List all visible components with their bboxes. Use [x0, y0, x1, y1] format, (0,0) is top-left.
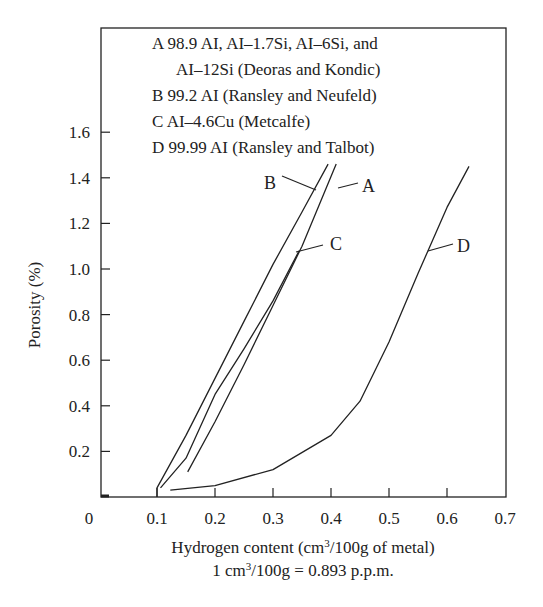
x-tick-label: 0.7	[494, 509, 516, 528]
porosity-chart: 0.20.40.60.81.01.21.41.6 00.10.20.30.40.…	[0, 0, 543, 607]
y-tick-label: 1.2	[69, 214, 90, 233]
curves	[157, 164, 469, 497]
y-tick-label: 0.2	[69, 442, 90, 461]
x-axis-ticks: 00.10.20.30.40.50.60.7	[85, 488, 516, 528]
x-axis-label: Hydrogen content (cm3/100g of metal)	[171, 537, 434, 557]
legend: A 98.9 AI, AI–1.7Si, AI–6Si, andAI–12Si …	[152, 34, 380, 157]
curve-b	[157, 164, 328, 497]
y-tick-label: 1.0	[69, 260, 90, 279]
curve-label-a: A	[362, 176, 375, 196]
y-tick-label: 1.4	[69, 169, 91, 188]
x-tick-label: 0.4	[320, 509, 342, 528]
x-tick-label: 0.2	[204, 509, 225, 528]
x-tick-label: 0.6	[436, 509, 457, 528]
curve-label-b: B	[264, 173, 276, 193]
y-tick-label: 0.6	[69, 351, 90, 370]
y-tick-label: 0.4	[69, 397, 91, 416]
y-axis-label: Porosity (%)	[25, 262, 44, 348]
leader-c	[296, 245, 323, 252]
curve-label-d: D	[457, 236, 470, 256]
curve-c	[161, 251, 300, 488]
y-axis-ticks: 0.20.40.60.81.01.21.41.6	[69, 123, 110, 461]
leader-d	[428, 244, 453, 251]
leader-b	[282, 176, 316, 190]
legend-entry-b: B 99.2 AI (Ransley and Neufeld)	[152, 86, 377, 105]
x-tick-label: 0	[85, 509, 94, 528]
legend-entry-c: C AI–4.6Cu (Metcalfe)	[152, 112, 310, 131]
curve-d	[170, 166, 469, 490]
curve-labels: ABCD	[264, 173, 470, 256]
x-tick-label: 0.1	[146, 509, 167, 528]
leader-a	[338, 183, 358, 188]
x-tick-label: 0.3	[262, 509, 283, 528]
legend-entry-a: A 98.9 AI, AI–1.7Si, AI–6Si, and	[152, 34, 378, 53]
legend-entry-d: D 99.99 AI (Ransley and Talbot)	[152, 138, 374, 157]
legend-entry-a-cont: AI–12Si (Deoras and Kondic)	[176, 60, 380, 79]
y-tick-label: 0.8	[69, 306, 90, 325]
x-tick-label: 0.5	[378, 509, 399, 528]
curve-label-c: C	[330, 234, 342, 254]
y-tick-label: 1.6	[69, 123, 90, 142]
x-axis-note: 1 cm3/100g = 0.893 p.p.m.	[212, 560, 393, 580]
